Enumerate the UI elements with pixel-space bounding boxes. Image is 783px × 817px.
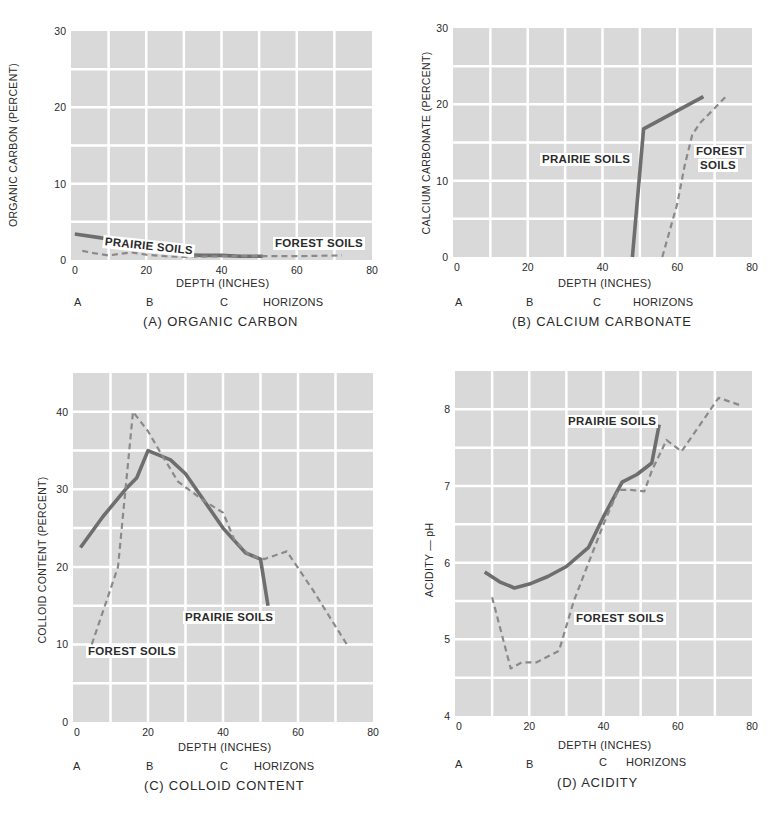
x-tick-label: 20 (523, 720, 535, 732)
chart-d-prairie-label: PRAIRIE SOILS (566, 415, 658, 428)
x-tick-label: 0 (456, 720, 462, 732)
chart-d-horizon-c: C (599, 756, 607, 768)
y-tick-label: 7 (444, 480, 450, 492)
y-tick-label: 8 (444, 403, 450, 415)
y-tick-label: 4 (444, 710, 450, 722)
chart-d-title: (D) ACIDITY (557, 775, 638, 790)
x-tick-label: 80 (746, 720, 758, 732)
x-tick-label: 40 (598, 720, 610, 732)
chart-d-xlabel: DEPTH (INCHES) (558, 739, 651, 751)
chart-d-forest-label: FOREST SOILS (574, 612, 666, 625)
chart-d-horizon-a: A (455, 758, 463, 770)
y-tick-label: 5 (444, 633, 450, 645)
chart-d-plot: 02040608045678ACIDITY — pH (0, 0, 783, 817)
y-tick-label: 6 (444, 557, 450, 569)
chart-d-horizon-b: B (526, 758, 534, 770)
chart-d-horizons: HORIZONS (626, 756, 686, 768)
x-tick-label: 60 (672, 720, 684, 732)
y-axis-label: ACIDITY — pH (423, 523, 435, 598)
